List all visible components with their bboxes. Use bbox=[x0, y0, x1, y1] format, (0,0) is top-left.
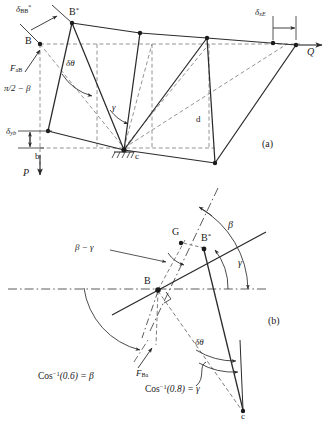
label-node-d: d bbox=[196, 115, 201, 124]
label-delta-BBstar: δBB* bbox=[16, 4, 31, 14]
delta-xE-dimension bbox=[273, 16, 296, 40]
support-hatching bbox=[112, 152, 134, 158]
label-delta-theta-b: δθ bbox=[195, 338, 204, 347]
beta-minus-gamma-arc bbox=[168, 253, 184, 265]
label-gamma-a: γ bbox=[112, 103, 116, 112]
beta-minus-gamma-leader bbox=[110, 250, 166, 262]
label-force-FBa-b: FBa bbox=[136, 369, 148, 378]
label-cos-beta: Cos−1(0.6) = β bbox=[38, 371, 94, 381]
label-node-c-b: c bbox=[241, 412, 245, 421]
right-angle-mark-B bbox=[164, 292, 171, 303]
joint-top-1 bbox=[138, 31, 142, 35]
label-delta-theta-a: δθ bbox=[66, 59, 75, 68]
label-pi-half-minus-beta: π/2 − β bbox=[4, 84, 31, 93]
label-cos-gamma: Cos−1(0.8) = γ bbox=[145, 384, 200, 394]
label-node-B: B bbox=[25, 36, 32, 46]
label-node-G: G bbox=[172, 227, 179, 237]
label-force-Q: Q bbox=[307, 47, 314, 57]
joint-G-b bbox=[179, 241, 183, 245]
label-panel-a: (a) bbox=[262, 139, 273, 149]
delta-BBstar-arrow bbox=[31, 16, 57, 30]
dash-diag-4 bbox=[124, 44, 287, 148]
label-beta-minus-gamma: β − γ bbox=[75, 243, 94, 252]
figure-canvas bbox=[0, 0, 327, 429]
member-top-1 bbox=[72, 23, 140, 33]
label-gamma-b: γ bbox=[238, 258, 242, 268]
joint-Bstar-b bbox=[202, 247, 207, 252]
member-vert-2 bbox=[207, 38, 215, 163]
dash-Bstar-to-G bbox=[183, 243, 204, 248]
label-delta-xE: δxE bbox=[255, 8, 266, 17]
label-node-b: b bbox=[35, 152, 40, 161]
joint-E-undeformed bbox=[271, 41, 275, 45]
member-B-Bstar-line bbox=[112, 232, 266, 315]
axis-beta-direction bbox=[150, 188, 218, 331]
joint-bottom-right bbox=[213, 161, 217, 165]
joint-B-b bbox=[155, 287, 161, 293]
joint-top-2 bbox=[205, 36, 209, 40]
label-node-B-star: B* bbox=[69, 7, 79, 17]
force-FaB-arrow bbox=[25, 50, 40, 72]
label-force-FaB: FaB bbox=[10, 64, 22, 73]
label-beta-b: β bbox=[228, 220, 233, 230]
panel-a-truss bbox=[18, 5, 322, 175]
label-panel-b: (b) bbox=[268, 316, 280, 326]
member-top-2 bbox=[140, 33, 207, 38]
member-Bstar-to-c bbox=[204, 250, 243, 410]
delta-yb-dimension bbox=[18, 131, 52, 148]
force-FBa-arrow-b bbox=[138, 348, 152, 368]
label-delta-yb: δyb bbox=[6, 127, 16, 136]
beta-arc bbox=[200, 208, 248, 289]
label-node-B-b: B bbox=[144, 276, 151, 286]
member-diag-3 bbox=[215, 45, 296, 163]
label-node-c: c bbox=[135, 152, 139, 161]
cos-beta-leader-tail bbox=[134, 340, 148, 362]
member-diag-1 bbox=[72, 23, 124, 150]
support-c bbox=[112, 152, 134, 158]
member-left-vert bbox=[48, 23, 72, 131]
dash-FBa-line bbox=[156, 291, 158, 345]
label-load-P: P bbox=[23, 168, 29, 178]
label-node-Bstar-b: B* bbox=[201, 233, 211, 243]
cos-beta-leader-arc bbox=[84, 288, 140, 350]
